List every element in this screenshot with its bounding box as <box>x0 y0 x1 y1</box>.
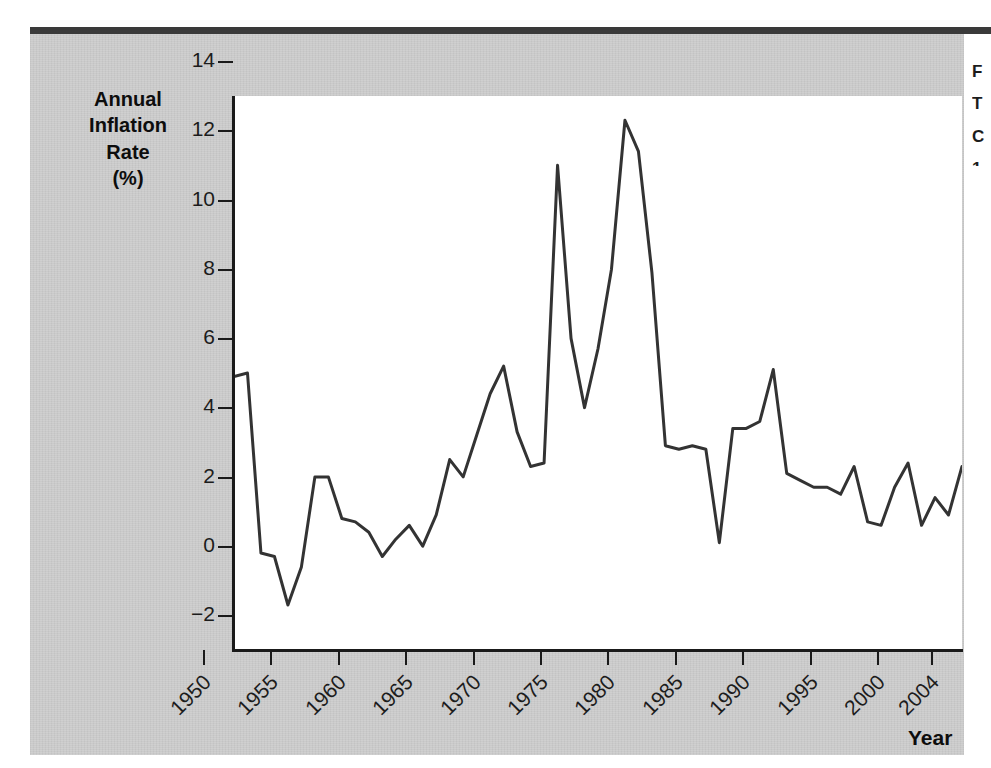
x-axis-tick <box>742 650 744 665</box>
y-axis-tick <box>218 61 233 63</box>
x-axis-tick <box>203 650 205 665</box>
x-axis-tick-label: 1995 <box>772 670 822 720</box>
margin-note-line-1: F <box>972 56 991 88</box>
margin-note-line-4: 1 <box>972 153 991 166</box>
y-axis-tick-label: 2 <box>169 464 215 488</box>
x-axis-tick-label: 1980 <box>570 670 620 720</box>
y-axis-tick <box>218 269 233 271</box>
y-axis-tick <box>218 200 233 202</box>
y-axis-tick <box>218 338 233 340</box>
margin-clipped-text: F T C 1 <box>972 56 991 166</box>
y-axis-tick-label: 6 <box>169 325 215 349</box>
x-axis-tick-label: 1990 <box>705 670 755 720</box>
x-axis-tick-label: 1960 <box>300 670 350 720</box>
x-axis-tick <box>338 650 340 665</box>
y-axis-tick-label: 8 <box>169 256 215 280</box>
x-axis-tick <box>607 650 609 665</box>
x-axis-tick <box>405 650 407 665</box>
x-axis-tick <box>270 650 272 665</box>
x-axis-tick <box>931 650 933 665</box>
y-axis-tick <box>218 407 233 409</box>
margin-note-line-2: T <box>972 88 991 120</box>
y-axis-tick-label: −2 <box>169 602 215 626</box>
x-axis-tick <box>810 650 812 665</box>
y-axis-line <box>232 96 235 652</box>
x-axis-tick-label: 1985 <box>638 670 688 720</box>
y-axis-tick <box>218 615 233 617</box>
y-axis-tick-label: 0 <box>169 533 215 557</box>
x-axis-tick <box>675 650 677 665</box>
y-axis-tick <box>218 130 233 132</box>
x-axis-tick-label: 1970 <box>435 670 485 720</box>
y-axis-tick <box>218 546 233 548</box>
x-axis-title: Year <box>908 726 952 750</box>
y-axis-tick-labels: 14121086420−2 <box>30 34 215 755</box>
x-axis-tick <box>540 650 542 665</box>
x-axis-tick <box>877 650 879 665</box>
figure-panel: Annual Inflation Rate (%) 14121086420−2 … <box>30 34 964 755</box>
x-axis-tick-label: 1965 <box>368 670 418 720</box>
x-axis-tick <box>473 650 475 665</box>
x-axis-tick-label: 1955 <box>233 670 283 720</box>
y-axis-tick <box>218 477 233 479</box>
x-axis-tick-label: 2004 <box>894 670 944 720</box>
x-axis-line <box>232 649 963 652</box>
inflation-rate-line <box>234 120 962 605</box>
margin-note-line-3: C <box>972 121 991 153</box>
x-axis-tick-label: 2000 <box>840 670 890 720</box>
x-axis-tick-label: 1975 <box>503 670 553 720</box>
y-axis-tick-label: 4 <box>169 394 215 418</box>
y-axis-tick-label: 14 <box>169 48 215 72</box>
plot-area <box>234 96 962 650</box>
inflation-line-chart <box>234 96 962 650</box>
y-axis-tick-label: 12 <box>169 117 215 141</box>
header-rule <box>30 27 991 34</box>
y-axis-tick-label: 10 <box>169 187 215 211</box>
